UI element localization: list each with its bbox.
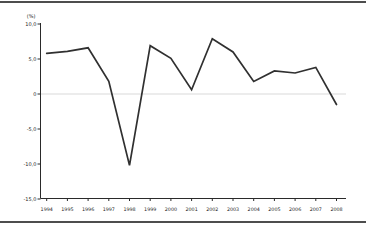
x-tick-label: 1997	[103, 207, 115, 212]
x-tick-label: 1996	[82, 207, 94, 212]
y-tick-label: 0	[33, 91, 36, 97]
y-tick-label: -5,0	[27, 126, 37, 132]
y-axis-unit-label: (%)	[27, 13, 36, 19]
bottom-border-line	[0, 221, 366, 223]
chart-page: 10,05,00-5,0-10,0-15,0199419951996199719…	[0, 0, 366, 231]
y-tick-label: 10,0	[25, 21, 36, 27]
line-chart: 10,05,00-5,0-10,0-15,0199419951996199719…	[0, 0, 366, 231]
y-tick-label: -10,0	[24, 161, 37, 167]
chart-canvas: 10,05,00-5,0-10,0-15,0199419951996199719…	[0, 0, 366, 231]
x-tick-label: 2006	[289, 207, 301, 212]
x-tick-label: 1998	[123, 207, 135, 212]
x-tick-label: 1999	[144, 207, 156, 212]
y-tick-label: -15,0	[24, 196, 37, 202]
x-tick-label: 2007	[310, 207, 322, 212]
x-tick-label: 2008	[330, 207, 342, 212]
y-tick-label: 5,0	[29, 56, 37, 62]
x-tick-label: 2002	[206, 207, 218, 212]
x-tick-label: 2001	[185, 207, 197, 212]
x-tick-label: 2003	[227, 207, 239, 212]
x-tick-label: 2004	[248, 207, 260, 212]
data-series-line	[47, 39, 337, 166]
x-tick-label: 2005	[268, 207, 280, 212]
x-tick-label: 2000	[165, 207, 177, 212]
x-tick-label: 1995	[61, 207, 73, 212]
x-tick-label: 1994	[41, 207, 53, 212]
